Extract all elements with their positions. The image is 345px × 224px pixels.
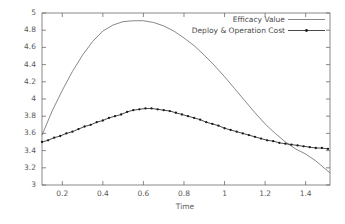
series-point-marker [144,107,146,109]
legend-point-marker [305,29,308,32]
series-point-marker [236,131,238,133]
series-point-marker [150,107,152,109]
series-point-marker [242,132,244,134]
y-tick-label: 4.8 [2,26,36,34]
series-point-marker [223,127,225,129]
y-tick-label: 4 [2,95,36,103]
series-point-marker [126,111,128,113]
series-point-marker [96,121,98,123]
series-point-marker [193,117,195,119]
series-point-marker [71,131,73,133]
x-axis-ticks [62,13,305,185]
series-point-marker [248,134,250,136]
chart-container: 33.23.43.63.844.24.44.64.85 0.20.40.60.8… [0,0,345,224]
series-point-marker [102,119,104,121]
x-tick-label: 0.2 [47,190,77,198]
legend-label-efficacy-value: Efficacy Value [160,15,285,24]
series-point-marker [132,109,134,111]
x-tick-label: 1.2 [250,190,280,198]
series-point-marker [284,143,286,145]
x-tick-label: 0.4 [88,190,118,198]
x-tick-label: 1 [210,190,240,198]
y-tick-label: 3 [2,181,36,189]
series-point-marker [199,118,201,120]
series-point-marker [205,121,207,123]
series-point-marker [309,146,311,148]
y-axis-ticks [42,13,330,185]
y-tick-label: 3.2 [2,164,36,172]
data-series-group [41,21,330,173]
y-tick-label: 4.6 [2,43,36,51]
x-tick-label: 1.4 [291,190,321,198]
series-point-marker [278,142,280,144]
series-point-marker [53,137,55,139]
series-point-marker [77,128,79,130]
series-point-marker [108,117,110,119]
y-tick-label: 3.6 [2,129,36,137]
series-point-marker [302,145,304,147]
series-point-marker [65,132,67,134]
series-point-marker [296,144,298,146]
series-point-marker [175,112,177,114]
y-tick-label: 3.4 [2,147,36,155]
series-point-marker [229,129,231,131]
y-tick-label: 4.2 [2,78,36,86]
series-point-marker [83,125,85,127]
x-tick-label: 0.6 [128,190,158,198]
series-point-marker [327,148,329,150]
series-point-marker [90,124,92,126]
series-point-marker [187,115,189,117]
series-point-marker [138,108,140,110]
series-point-marker [254,136,256,138]
x-tick-label: 0.8 [169,190,199,198]
series-point-marker [120,113,122,115]
series-point-marker [211,123,213,125]
series-point-marker [163,109,165,111]
series-point-marker [156,108,158,110]
y-tick-label: 5 [2,9,36,17]
series-point-marker [181,113,183,115]
series-point-marker [260,137,262,139]
series-line-efficacy-value [42,21,330,173]
x-axis-title: Time [145,203,225,211]
series-point-marker [272,140,274,142]
series-point-marker [59,135,61,137]
series-point-marker [315,147,317,149]
series-point-marker [114,115,116,117]
series-point-marker [290,143,292,145]
series-point-marker [266,139,268,141]
series-point-marker [47,139,49,141]
series-point-marker [41,141,43,143]
series-point-marker [217,125,219,127]
plot-frame [42,13,330,185]
series-point-marker [169,110,171,112]
y-tick-label: 4.4 [2,61,36,69]
series-point-marker [321,147,323,149]
legend-label-deploy-operation-cost: Deploy & Operation Cost [140,26,285,35]
y-tick-label: 3.8 [2,112,36,120]
legend-line-samples [288,20,325,32]
